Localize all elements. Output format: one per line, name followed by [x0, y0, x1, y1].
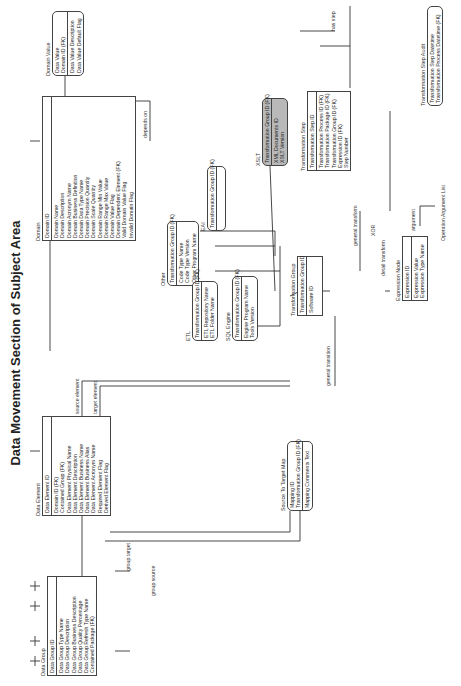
pk-attr: Data Element ID: [44, 419, 50, 513]
attr: Data Value Default Flag: [76, 14, 82, 73]
rel-label-general-transition: general transition: [325, 346, 331, 386]
attr: Tools Version: [249, 279, 255, 338]
attr: Derived Element Flag: [103, 419, 109, 513]
entity-xslt[interactable]: XSLT Transformation Group ID (FK) XML Do…: [255, 98, 288, 166]
attr: XSLT Version: [279, 101, 285, 163]
attr: Transformation Group ID (FK): [331, 94, 337, 168]
rel-label-detail-transform: detail transform: [380, 240, 386, 276]
entity-operation-argument-list[interactable]: Operation Argument List: [440, 185, 446, 241]
entity-name: ETL: [185, 281, 191, 341]
entity-domain[interactable]: Domain Domain ID Domain Name Domain Desc…: [35, 96, 136, 241]
entity-name: Data Group: [40, 576, 46, 676]
entity-eai[interactable]: EAI Transformation Group ID (FK): [200, 166, 226, 231]
entity-name: Source To Target Map: [280, 441, 286, 511]
entity-sql-engine[interactable]: SQL Engine Transformation Group ID (FK) …: [225, 276, 258, 341]
attr: Contained Package (FK): [89, 579, 95, 673]
pk-attr: Transformation Group ID (FK): [209, 169, 215, 228]
pk-attr: Transformation Group ID (FK): [194, 284, 200, 338]
attr: Step Number: [343, 94, 349, 168]
pk-attr: Transformation Group ID (FK): [169, 224, 175, 283]
attr: ETL Folder Name: [209, 284, 215, 338]
rel-label-argument: argument: [410, 209, 416, 231]
entity-name: Domain: [35, 96, 41, 241]
rel-label-xor: XOR: [370, 225, 376, 236]
entity-etl[interactable]: ETL Transformation Group ID (FK) ETL Rep…: [185, 281, 218, 341]
entity-source-to-target-map[interactable]: Source To Target Map Mapping ID Transfor…: [280, 441, 313, 511]
rel-label-has-step: has step: [330, 11, 336, 31]
entity-name: Data Element: [35, 416, 41, 516]
entity-transformation-group[interactable]: Transformation Group Transformation Grou…: [290, 256, 323, 316]
entity-transformation-step[interactable]: Transformation Step Transformation Step …: [300, 91, 351, 171]
er-diagram: Data Movement Section of Subject Area: [0, 0, 461, 686]
pk-attr: Transformation Group ID: [299, 259, 305, 313]
entity-name: Other: [160, 221, 166, 286]
attr: Expression Type Name: [419, 239, 425, 298]
pk-attr: Transformation Group ID (FK): [264, 101, 270, 163]
rel-label-target-element: target element: [92, 381, 98, 414]
rel-label-group-target: group target: [125, 543, 131, 571]
entity-data-group[interactable]: Data Group Data Group ID Data Group Type…: [40, 576, 97, 676]
attr: Invalid Domain Flag: [128, 99, 134, 238]
pk-attr: Transformation Group ID (FK): [295, 444, 301, 508]
rel-label-depends-on: depends on: [142, 111, 148, 138]
rel-label-source-element: source element: [74, 379, 80, 414]
rel-label-group-source: group source: [150, 566, 156, 596]
entity-domain-value[interactable]: Domain Value Data Value Domain ID (FK) D…: [45, 11, 84, 76]
entity-other[interactable]: Other Transformation Group ID (FK) Code …: [160, 221, 199, 286]
entity-name: Transformation Step: [300, 91, 306, 171]
entity-name: Transformation Group: [290, 256, 296, 316]
pk-attr: Expression ID: [404, 239, 410, 298]
entity-name: Transformation Step Audit: [420, 6, 426, 106]
attr: Mapping Comments Text: [304, 444, 310, 508]
entity-expression-node[interactable]: Expression Node Expression ID Expression…: [395, 236, 428, 301]
pk-attr: Transformation Step ID: [309, 94, 315, 168]
entity-name: Expression Node: [395, 236, 401, 301]
pk-attr: Domain ID (FK): [60, 14, 66, 73]
pk-attr: Domain ID: [44, 99, 50, 238]
entity-name: Domain Value: [45, 11, 51, 76]
pk-attr: Data Group ID: [49, 579, 55, 673]
entity-name: EAI: [200, 166, 206, 231]
attr: Transformation Package ID (FK): [324, 94, 330, 168]
entity-name: SQL Engine: [225, 276, 231, 341]
entity-name: XSLT: [255, 98, 261, 166]
pk-attr: Transformation Group ID (FK): [234, 279, 240, 338]
rel-label-general-transform: general transform: [352, 205, 358, 246]
attr: Transformation Process Datetime (FK): [435, 9, 441, 103]
entity-transformation-step-audit[interactable]: Transformation Step Audit Transformation…: [420, 6, 443, 106]
entity-data-element[interactable]: Data Element Data Element ID Domain ID (…: [35, 416, 111, 516]
attr: Data Value Description: [69, 14, 75, 73]
